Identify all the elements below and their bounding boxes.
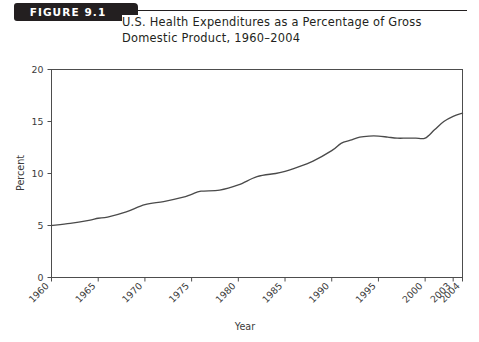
y-tick-label-10: 10 xyxy=(32,168,44,179)
line-chart: 05101520 1960196519701975198019851990199… xyxy=(0,58,479,342)
y-axis-title: Percent xyxy=(15,155,26,191)
figure-number-label: FIGURE 9.1 xyxy=(30,7,107,18)
title-divider-rule xyxy=(122,10,467,11)
y-tick-label-15: 15 xyxy=(32,116,44,127)
figure-title: U.S. Health Expenditures as a Percentage… xyxy=(122,14,472,46)
figure-title-line-2: Domestic Product, 1960–2004 xyxy=(122,30,472,46)
x-tick-label-1970: 1970 xyxy=(120,280,145,305)
x-tick-label-2000: 2000 xyxy=(400,280,425,305)
y-tick-label-5: 5 xyxy=(38,220,44,231)
y-tick-label-20: 20 xyxy=(32,64,44,75)
x-tick-label-1985: 1985 xyxy=(260,280,285,305)
data-series-line xyxy=(52,113,463,225)
x-tick-label-1975: 1975 xyxy=(166,280,191,305)
x-axis-tick-labels: 1960196519701975198019851990199520002003… xyxy=(26,280,462,305)
y-axis-tick-labels: 05101520 xyxy=(32,64,44,283)
figure-title-line-1: U.S. Health Expenditures as a Percentage… xyxy=(122,14,472,30)
x-tick-label-1990: 1990 xyxy=(306,280,331,305)
plot-frame xyxy=(52,70,463,278)
figure-number-badge: FIGURE 9.1 xyxy=(14,3,122,21)
chart-area: 05101520 1960196519701975198019851990199… xyxy=(0,58,479,342)
x-tick-label-1965: 1965 xyxy=(73,280,98,305)
y-axis-ticks xyxy=(48,70,52,278)
x-axis-title: Year xyxy=(234,321,255,332)
figure-header: FIGURE 9.1 U.S. Health Expenditures as a… xyxy=(0,0,479,58)
x-tick-label-1960: 1960 xyxy=(26,280,51,305)
x-tick-label-1980: 1980 xyxy=(213,280,238,305)
x-axis-ticks xyxy=(52,278,463,282)
x-tick-label-1995: 1995 xyxy=(353,280,378,305)
